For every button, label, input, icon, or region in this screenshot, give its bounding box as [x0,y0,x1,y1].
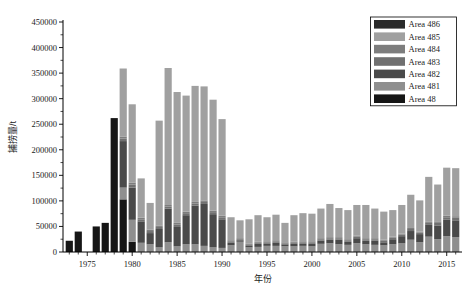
bar-segment [425,223,432,225]
bar-segment [317,238,324,239]
bar-segment [290,244,297,247]
legend: Area 486Area 485Area 484Area 483Area 482… [371,17,457,106]
bar-segment [254,243,261,244]
bar-segment [389,238,396,240]
bar-segment [93,226,100,252]
x-tick-label: 2010 [393,259,410,269]
bar-segment [75,232,82,252]
bar-segment [147,203,154,230]
bar-segment [389,244,396,252]
bar-segment [362,238,369,239]
legend-swatch [374,57,405,66]
bar-stack [452,168,459,252]
bar-segment [452,218,459,221]
bar-segment [165,207,172,209]
bar-segment [452,220,459,237]
bar-segment [407,240,414,252]
bar-segment [344,210,351,239]
y-tick-label: 200000 [32,145,58,155]
bar-segment [371,209,378,239]
bar-stack [371,209,378,252]
bar-segment [389,237,396,238]
bar-segment [407,228,414,229]
bar-segment [425,222,432,223]
bar-segment [380,242,387,245]
legend-swatch [374,94,405,103]
bar-segment [443,220,450,236]
bar-segment [156,227,163,229]
bar-stack [326,204,333,252]
bar-stack [120,69,127,252]
bar-stack [209,100,216,252]
bar-segment [236,242,243,252]
bar-segment [120,139,127,142]
bar-segment [443,168,450,216]
bar-segment [362,205,369,238]
bar-segment [192,205,199,244]
bar-segment [165,209,172,243]
bar-segment [353,236,360,237]
bar-segment [227,243,234,246]
y-tick-label: 100000 [32,196,58,206]
bar-segment [147,230,154,232]
bar-segment [236,239,243,240]
bar-segment [129,242,136,252]
legend-swatch [374,82,405,91]
bar-segment [326,240,333,244]
bar-stack [335,208,342,252]
bar-segment [183,213,190,215]
bar-segment [192,203,199,205]
bar-segment [299,246,306,252]
bar-segment [174,246,181,252]
bar-segment [290,246,297,252]
bar-segment [398,243,405,252]
bar-segment [416,200,423,231]
bar-stack [236,220,243,252]
legend-label: Area 486 [409,19,440,29]
bar-segment [380,241,387,243]
bar-segment [299,242,306,244]
bar-segment [452,216,459,218]
bar-segment [299,241,306,242]
bar-segment [192,244,199,252]
bar-stack [156,121,163,252]
bar-segment [434,223,441,226]
bar-segment [129,188,136,220]
bar-segment [317,239,324,241]
legend-swatch [374,20,405,29]
bar-segment [416,233,423,235]
bar-segment [138,221,145,242]
y-tick-label: 250000 [32,119,58,129]
bar-segment [129,104,136,182]
bar-segment [138,243,145,252]
bar-segment [389,239,396,244]
bar-segment [263,246,270,252]
bar-stack [398,205,405,252]
bar-segment [452,237,459,252]
bar-segment [425,237,432,252]
bar-segment [263,244,270,246]
bar-segment [183,215,190,244]
y-tick-label: 50000 [36,221,57,231]
bar-stack [353,205,360,252]
bar-segment [200,202,207,204]
bar-segment [183,96,190,212]
bar-stack [218,119,225,252]
x-tick-label: 1985 [169,259,186,269]
bar-segment [165,205,172,207]
bar-segment [335,238,342,240]
bar-segment [218,119,225,216]
bar-segment [317,244,324,252]
bar-segment [326,243,333,252]
bar-segment [245,244,252,245]
bar-segment [362,244,369,252]
bar-stack [281,223,288,252]
bar-segment [371,245,378,252]
bar-segment [218,217,225,219]
bar-segment [111,118,118,252]
bar-segment [317,241,324,244]
bar-segment [156,225,163,227]
bar-segment [344,245,351,252]
bar-segment [425,225,432,237]
bar-segment [443,216,450,218]
